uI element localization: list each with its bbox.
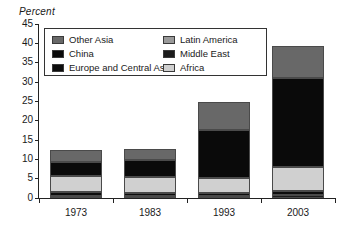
legend-swatch-icon [52, 50, 64, 58]
legend-item: Middle East [163, 47, 238, 60]
bar-segment [124, 149, 176, 160]
y-tick-label: 5 [27, 172, 33, 184]
legend-item-label: Europe and Central Asia [69, 62, 172, 73]
x-tick-mark [187, 198, 188, 203]
chart-legend: Other AsiaChinaEurope and Central Asia L… [44, 28, 267, 76]
legend-item-label: Latin America [180, 34, 238, 45]
y-tick-label: 15 [22, 134, 33, 146]
y-tick-label: 30 [22, 76, 33, 88]
y-tick-label: 25 [22, 95, 33, 107]
legend-item: Other Asia [52, 33, 172, 46]
y-tick-label: 35 [22, 56, 33, 68]
y-tick-label: 45 [22, 18, 33, 30]
stacked-bar [124, 149, 176, 198]
y-tick-mark [35, 120, 39, 121]
bar-segment [50, 162, 102, 176]
bar-segment [50, 176, 102, 192]
y-tick-mark [35, 178, 39, 179]
bar-segment [272, 195, 324, 198]
bar-segment [272, 167, 324, 191]
y-tick-mark [35, 24, 39, 25]
x-tick-label: 1973 [65, 207, 87, 218]
bar-segment [50, 150, 102, 161]
y-tick-label: 10 [22, 153, 33, 165]
x-tick-label: 2003 [287, 207, 309, 218]
bar-segment [50, 192, 102, 197]
y-tick-label: 40 [22, 37, 33, 49]
bar-segment [198, 196, 250, 198]
legend-swatch-icon [163, 50, 175, 58]
legend-swatch-icon [163, 64, 175, 72]
legend-column-left: Other AsiaChinaEurope and Central Asia [52, 33, 172, 75]
bar-segment [198, 178, 250, 193]
bar-segment [124, 196, 176, 198]
x-tick-label: 1983 [139, 207, 161, 218]
legend-item-label: China [69, 48, 94, 59]
bar-segment [198, 130, 250, 178]
legend-item: Europe and Central Asia [52, 61, 172, 74]
bar-segment [124, 193, 176, 196]
stacked-bar [198, 102, 250, 198]
bar-segment [272, 191, 324, 195]
bar-segment [124, 177, 176, 193]
legend-column-right: Latin AmericaMiddle EastAfrica [163, 33, 238, 75]
bar-segment [198, 193, 250, 196]
x-tick-mark [39, 198, 40, 203]
legend-item-label: Africa [180, 62, 204, 73]
y-tick-mark [35, 43, 39, 44]
y-tick-mark [35, 62, 39, 63]
legend-item-label: Middle East [180, 48, 230, 59]
legend-swatch-icon [52, 36, 64, 44]
legend-item: China [52, 47, 172, 60]
legend-item: Africa [163, 61, 238, 74]
legend-item: Latin America [163, 33, 238, 46]
y-tick-mark [35, 159, 39, 160]
y-tick-mark [35, 82, 39, 83]
y-tick-mark [35, 140, 39, 141]
legend-swatch-icon [163, 36, 175, 44]
y-tick-mark [35, 101, 39, 102]
bar-segment [272, 46, 324, 78]
y-axis-title: Percent [19, 6, 55, 17]
x-tick-mark [113, 198, 114, 203]
y-tick-label: 20 [22, 114, 33, 126]
legend-swatch-icon [52, 64, 64, 72]
stacked-bar [272, 46, 324, 198]
y-tick-label: 0 [27, 192, 33, 204]
stacked-bar [50, 150, 102, 198]
stacked-bar-chart-figure: Percent 051015202530354045 1973198319932… [0, 0, 346, 229]
legend-item-label: Other Asia [69, 34, 113, 45]
bar-segment [124, 160, 176, 177]
bar-segment [198, 102, 250, 130]
x-tick-label: 1993 [213, 207, 235, 218]
x-tick-mark [335, 198, 336, 203]
bar-segment [272, 78, 324, 167]
x-tick-mark [261, 198, 262, 203]
